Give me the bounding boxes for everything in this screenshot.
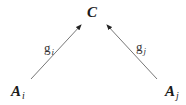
node-c: C: [87, 5, 97, 20]
node-a-j-label: A: [165, 83, 175, 99]
edge-label-g-i-subscript: i: [52, 47, 55, 57]
node-c-label: C: [87, 4, 97, 20]
node-a-i: Ai: [11, 84, 25, 101]
edge-label-g-i-text: g: [44, 40, 51, 55]
edge-label-g-j: gj: [136, 40, 146, 56]
edge-label-g-j-text: g: [136, 39, 143, 54]
node-a-j-subscript: j: [176, 90, 179, 101]
node-a-i-label: A: [11, 83, 21, 99]
node-a-j: Aj: [165, 84, 179, 101]
node-a-i-subscript: i: [22, 90, 25, 101]
edge-a-i-to-c-arrow: [31, 25, 81, 79]
edge-a-j-to-c-arrow: [107, 25, 157, 79]
edge-label-g-i: gi: [44, 41, 54, 57]
edge-label-g-j-subscript: j: [144, 46, 147, 56]
